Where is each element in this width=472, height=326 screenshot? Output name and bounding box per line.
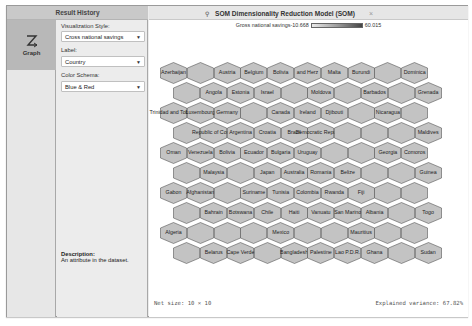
som-cell[interactable] [254, 242, 281, 264]
som-cell[interactable]: Croatia [254, 122, 281, 144]
som-cell[interactable]: Belarus [200, 242, 227, 264]
som-cell[interactable]: Romania [307, 162, 334, 184]
som-cell[interactable]: Botswana [227, 202, 254, 224]
som-cell[interactable] [361, 162, 388, 184]
history-item-graph[interactable]: Graph [7, 20, 56, 70]
som-cell[interactable]: Ghana [361, 242, 388, 264]
som-cell[interactable] [321, 222, 348, 244]
som-cell[interactable]: Oman [160, 142, 187, 164]
som-cell[interactable]: Guinea [415, 162, 442, 184]
som-cell[interactable] [401, 182, 428, 204]
som-cell[interactable]: Argentina [227, 122, 254, 144]
som-cell[interactable]: Comoros [401, 142, 428, 164]
visualization-style-select[interactable]: Cross national savings ▼ [61, 31, 145, 42]
close-icon[interactable]: × [369, 10, 373, 17]
som-cell[interactable]: Lao P.D.R. [334, 242, 361, 264]
som-cell[interactable] [374, 62, 401, 84]
som-cell[interactable] [401, 222, 428, 244]
som-cell[interactable] [334, 82, 361, 104]
som-cell[interactable] [214, 182, 241, 204]
som-cell[interactable]: Burundi [348, 62, 375, 84]
som-cell[interactable]: Moldova [307, 82, 334, 104]
som-cell[interactable] [173, 202, 200, 224]
som-cell[interactable] [281, 82, 308, 104]
som-cell[interactable]: Afghanistan [187, 182, 214, 204]
som-cell[interactable]: Austria [214, 62, 241, 84]
som-cell[interactable]: Chile [254, 202, 281, 224]
som-cell[interactable]: Belize [334, 162, 361, 184]
som-cell[interactable]: Georgia [374, 142, 401, 164]
som-cell[interactable]: Vanuatu [307, 202, 334, 224]
som-cell[interactable] [374, 222, 401, 244]
som-cell[interactable] [388, 242, 415, 264]
som-cell[interactable] [240, 222, 267, 244]
som-cell[interactable] [173, 162, 200, 184]
som-cell[interactable]: Ireland [294, 102, 321, 124]
som-cell[interactable] [187, 62, 214, 84]
som-cell[interactable]: Nicaragua [374, 102, 401, 124]
som-cell[interactable] [187, 222, 214, 244]
som-cell[interactable]: Trinidad and Tobago [160, 102, 187, 124]
som-cell[interactable]: Fiji [348, 182, 375, 204]
label-select[interactable]: Country ▼ [61, 56, 145, 67]
som-cell[interactable]: Bahrain [200, 202, 227, 224]
som-cell[interactable]: Tunisia [267, 182, 294, 204]
som-cell[interactable]: Azerbaijan [160, 62, 187, 84]
som-cell[interactable]: Ecuador [240, 142, 267, 164]
som-cell[interactable] [173, 82, 200, 104]
som-cell[interactable]: Dominica [401, 62, 428, 84]
som-cell[interactable]: Luxembourg [187, 102, 214, 124]
som-cell[interactable] [388, 202, 415, 224]
som-cell[interactable] [374, 182, 401, 204]
som-cell[interactable]: Mauritius [348, 222, 375, 244]
som-cell[interactable]: Malta [321, 62, 348, 84]
som-cell[interactable] [227, 162, 254, 184]
som-cell[interactable]: Cape Verde [227, 242, 254, 264]
som-cell[interactable] [173, 122, 200, 144]
som-cell[interactable]: Israel [254, 82, 281, 104]
som-cell[interactable]: Japan [254, 162, 281, 184]
tab-som-model[interactable]: ⚲ SOM Dimensionality Reduction Model (SO… [205, 6, 373, 20]
som-cell[interactable]: Democratic Republic of [307, 122, 334, 144]
som-cell[interactable]: Colombia [294, 182, 321, 204]
som-cell[interactable] [388, 162, 415, 184]
som-cell[interactable]: Grenada [415, 82, 442, 104]
som-cell[interactable] [401, 102, 428, 124]
som-cell[interactable]: Venezuela [187, 142, 214, 164]
som-cell[interactable]: Brazil [281, 122, 308, 144]
som-cell[interactable]: Djibouti [321, 102, 348, 124]
som-cell[interactable]: Republic of Congo [200, 122, 227, 144]
som-cell[interactable] [240, 102, 267, 124]
som-cell[interactable]: Bolivia [214, 142, 241, 164]
som-cell[interactable]: Mexico [267, 222, 294, 244]
som-cell[interactable] [388, 82, 415, 104]
som-cell[interactable]: Rwanda [321, 182, 348, 204]
som-cell[interactable]: and Herz [294, 62, 321, 84]
som-cell[interactable]: San Marino [334, 202, 361, 224]
som-cell[interactable]: Estonia [227, 82, 254, 104]
som-cell[interactable]: Germany [214, 102, 241, 124]
som-cell[interactable]: Canada [267, 102, 294, 124]
som-cell[interactable]: Haiti [281, 202, 308, 224]
som-cell[interactable]: Maldives [415, 122, 442, 144]
som-cell[interactable]: Suriname [240, 182, 267, 204]
som-cell[interactable] [348, 142, 375, 164]
som-cell[interactable]: Togo [415, 202, 442, 224]
som-cell[interactable]: Belgium [240, 62, 267, 84]
som-cell[interactable] [294, 222, 321, 244]
som-cell[interactable]: Algeria [160, 222, 187, 244]
som-cell[interactable]: Sudan [415, 242, 442, 264]
som-cell[interactable]: Australia [281, 162, 308, 184]
color-schema-select[interactable]: Blue & Red ▼ [61, 81, 145, 92]
som-cell[interactable]: Bulgaria [267, 142, 294, 164]
som-cell[interactable]: Bangladesh [281, 242, 308, 264]
som-cell[interactable]: Angola [200, 82, 227, 104]
som-cell[interactable]: Malaysia [200, 162, 227, 184]
som-cell[interactable] [348, 102, 375, 124]
som-cell[interactable] [388, 122, 415, 144]
som-cell[interactable] [334, 122, 361, 144]
som-cell[interactable]: Barbados [361, 82, 388, 104]
som-cell[interactable] [361, 122, 388, 144]
som-cell[interactable] [321, 142, 348, 164]
som-cell[interactable]: Gabon [160, 182, 187, 204]
